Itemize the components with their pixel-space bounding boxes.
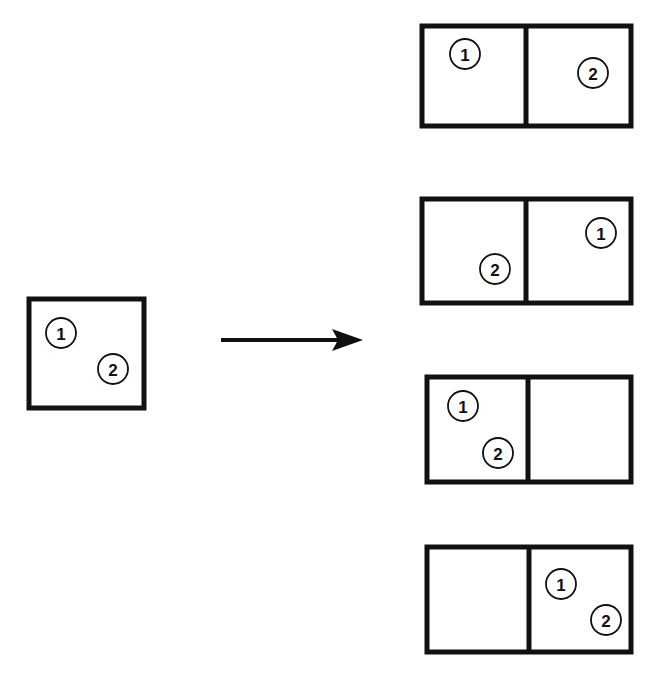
outcome-4: 1 2 [427, 547, 631, 652]
outcome-2: 1 2 [422, 199, 631, 303]
transition-arrow-icon [221, 329, 363, 351]
particle-label: 1 [56, 325, 65, 344]
particle-label: 1 [460, 46, 469, 65]
diagram-canvas: 1 2 1 2 1 2 1 2 [0, 0, 660, 678]
particle-1: 1 [46, 318, 76, 348]
particle-label: 2 [493, 445, 502, 464]
particle-label: 2 [108, 361, 117, 380]
outcome-3: 1 2 [427, 377, 631, 482]
particle-label: 1 [596, 225, 605, 244]
outcome-1: 1 2 [422, 26, 631, 126]
source-cell [29, 299, 144, 408]
source-box: 1 2 [29, 299, 144, 408]
particle-label: 1 [556, 576, 565, 595]
particle-label: 2 [588, 65, 597, 84]
particle-label: 2 [601, 612, 610, 631]
particle-2: 2 [98, 354, 128, 384]
particle-label: 2 [490, 261, 499, 280]
particle-label: 1 [458, 398, 467, 417]
